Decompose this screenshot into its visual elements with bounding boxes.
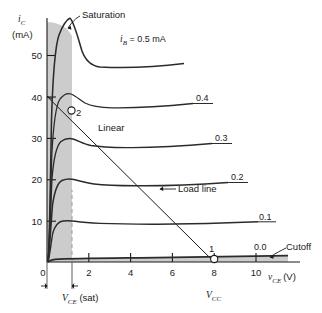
x-axis-title: vCE(V) [268, 271, 296, 285]
y-tick-label-20: 20 [31, 174, 42, 185]
y-tick-label-10: 10 [31, 216, 42, 227]
curve-label-ib-0.0: 0.0 [254, 242, 267, 252]
cutoff-label: Cutoff [286, 241, 312, 252]
x-tick-label-2: 2 [86, 267, 91, 278]
operating-point-2-label: 2 [76, 107, 81, 118]
y-tick-label-30: 30 [31, 133, 42, 144]
chart-svg: 50 40 30 20 10 0 2 4 6 8 10 iC (mA) vCE(… [0, 0, 322, 313]
x-tick-label-6: 6 [170, 267, 175, 278]
curve-label-ib-0.5: iB = 0.5 mA [120, 34, 166, 47]
curve-label-ib-0.3: 0.3 [215, 133, 228, 143]
curve-label-ib-0.2: 0.2 [231, 172, 244, 182]
load-line-label: Load line [178, 183, 217, 194]
y-axis-title: iC [18, 14, 26, 27]
y-tick-label-40: 40 [31, 92, 42, 103]
y-tick-label-50: 50 [31, 50, 42, 61]
y-axis-unit: (mA) [12, 29, 33, 40]
transistor-characteristics-figure: 50 40 30 20 10 0 2 4 6 8 10 iC (mA) vCE(… [0, 0, 322, 313]
operating-point-2-marker [68, 107, 75, 114]
vcc-label: VCC [206, 290, 221, 303]
curve-label-ib-0.1: 0.1 [259, 212, 272, 222]
operating-point-1-marker [211, 255, 218, 262]
curve-label-ib-0.4: 0.4 [196, 93, 209, 103]
saturation-label: Saturation [82, 9, 125, 20]
load-line-arrowhead [160, 187, 164, 191]
curve-ib-0.1 [48, 221, 258, 262]
x-tick-label-4: 4 [128, 267, 133, 278]
linear-label: Linear [98, 122, 124, 133]
x-tick-label-0: 0 [40, 267, 45, 278]
curve-ib-0.3 [48, 139, 212, 261]
vce-sat-dimension [41, 262, 78, 289]
x-tick-label-8: 8 [212, 267, 217, 278]
vce-sat-label: VCE (sat) [62, 292, 98, 306]
operating-point-1-label: 1 [209, 243, 214, 254]
x-tick-label-10: 10 [251, 267, 262, 278]
